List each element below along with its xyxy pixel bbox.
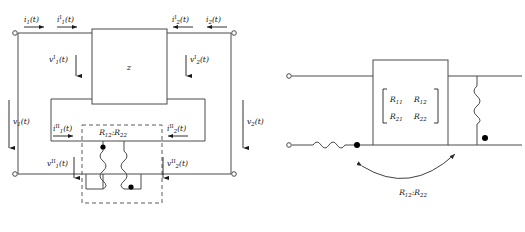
matrix-block xyxy=(373,60,448,145)
label-i2-part-I: iI2(t) xyxy=(172,14,189,25)
left-series-resistor-dot xyxy=(354,142,360,148)
label-i1-part-II: iII1(t) xyxy=(53,123,72,134)
figure-root: z i1(t) iI1(t) iI2(t) i2(t) vI1(t) xyxy=(0,0,525,232)
z-block-label: z xyxy=(126,62,132,72)
label-v1-part-I: vI1(t) xyxy=(49,54,68,65)
label-transformer-ratio: R12:R22 xyxy=(98,128,127,138)
label-i2-total: i2(t) xyxy=(206,15,221,25)
coil-right-winding xyxy=(121,151,127,189)
label-v2-total: v2(t) xyxy=(247,117,264,127)
terminal-top-right xyxy=(232,31,237,36)
label-v2-part-I: vI2(t) xyxy=(190,54,209,65)
ratio-annotation-arrow xyxy=(362,154,455,179)
right-terminal-top-left xyxy=(287,74,292,79)
right-diagram: R11 R12 R21 R22 R12:R22 xyxy=(287,60,522,198)
label-i1-total: i1(t) xyxy=(24,15,39,25)
right-terminal-bottom-left xyxy=(287,143,292,148)
label-v1-total: v1(t) xyxy=(13,117,30,127)
terminal-top-left xyxy=(13,31,18,36)
label-ratio-annotation: R12:R22 xyxy=(398,188,427,198)
label-i2-part-II: iII2(t) xyxy=(167,123,186,134)
label-v1-part-II: vII1(t) xyxy=(47,158,68,169)
right-shunt-resistor-winding xyxy=(474,86,480,124)
polarity-dot-right xyxy=(128,184,133,189)
terminal-bottom-right xyxy=(232,172,237,177)
label-i1-part-I: iI1(t) xyxy=(57,14,74,25)
label-v2-part-II: vII2(t) xyxy=(167,158,188,169)
polarity-dot-left xyxy=(100,144,105,149)
terminal-bottom-left xyxy=(13,172,18,177)
left-diagram: z i1(t) iI1(t) iI2(t) i2(t) vI1(t) xyxy=(9,14,264,203)
right-shunt-resistor-dot xyxy=(482,135,488,141)
circuit-canvas: z i1(t) iI1(t) iI2(t) i2(t) vI1(t) xyxy=(0,0,525,232)
left-series-resistor-winding xyxy=(313,142,345,148)
right-inner-branch xyxy=(167,99,205,141)
left-inner-branch xyxy=(51,99,92,141)
